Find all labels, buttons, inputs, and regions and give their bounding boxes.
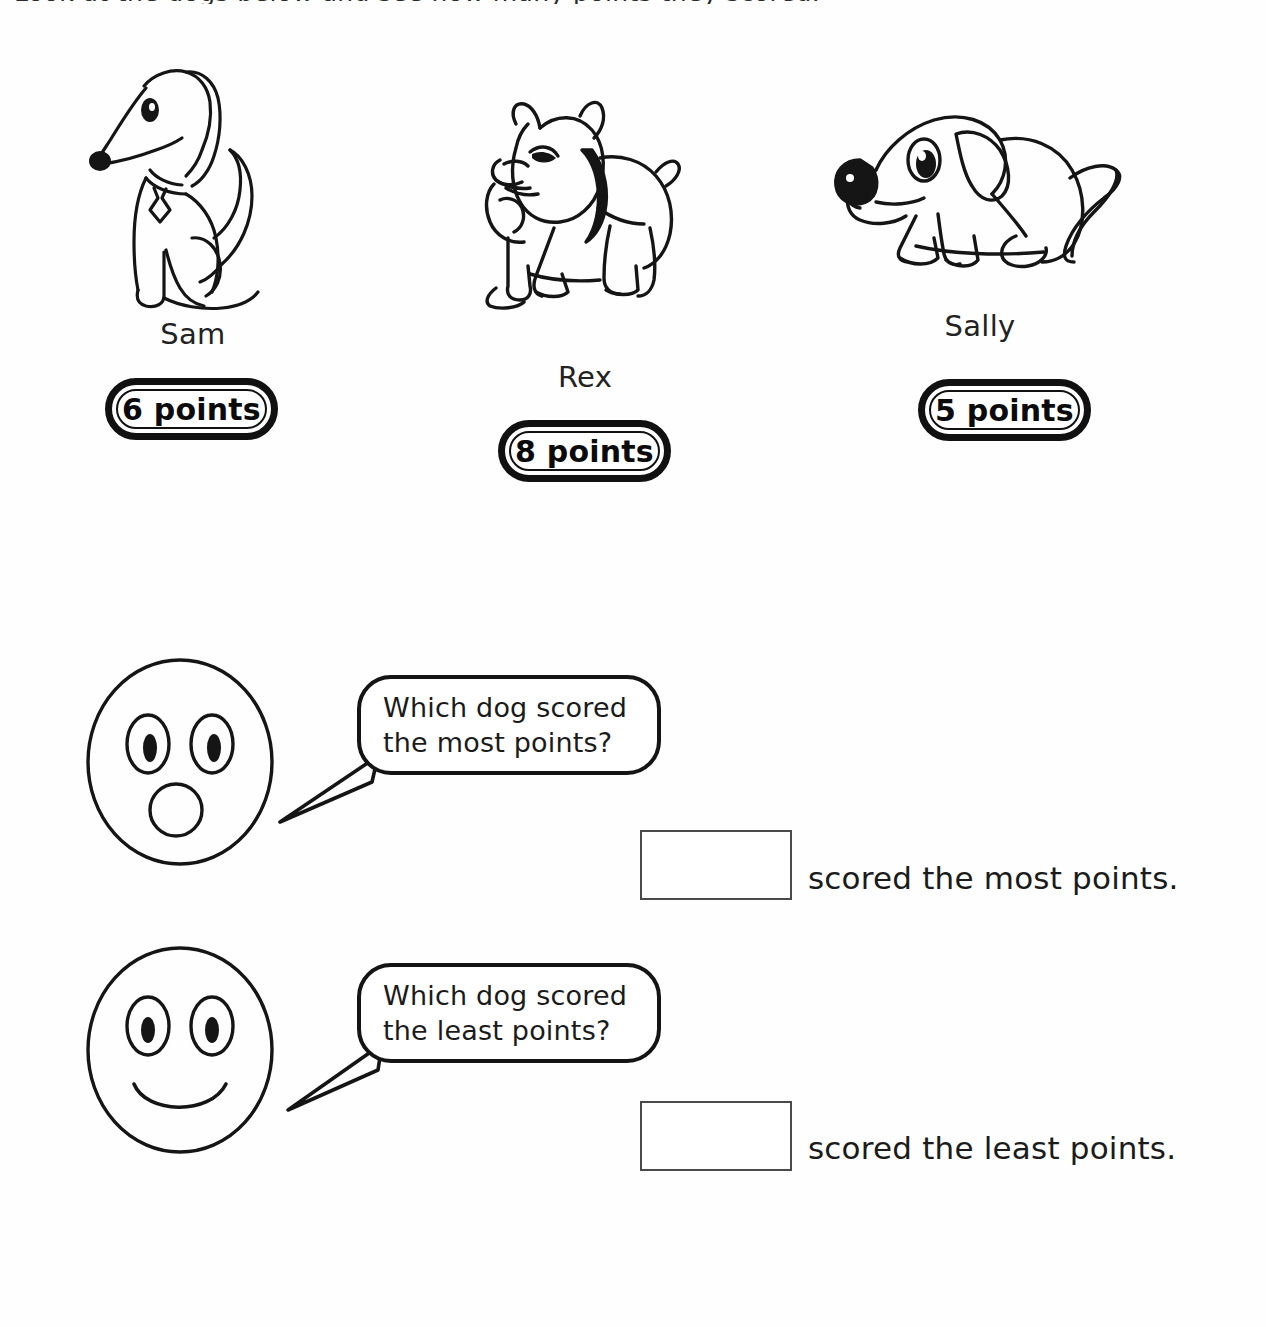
dog-illustration-sally <box>820 96 1140 296</box>
dog-name-sally: Sally <box>820 309 1140 343</box>
speech-bubble-least: Which dog scored the least points? <box>357 963 661 1063</box>
dog-panel-sam: Sam 6 points <box>88 52 298 452</box>
surprised-face-icon <box>84 656 284 868</box>
cut-off-header-label: Look at the dogs below and see how many … <box>0 0 1266 4</box>
dog-illustration-rex <box>470 88 700 328</box>
dog-name-rex: Rex <box>470 360 700 394</box>
dog-name-sam: Sam <box>88 317 298 351</box>
points-badge-rex: 8 points <box>498 420 671 482</box>
speech-bubble-most: Which dog scored the most points? <box>357 675 661 775</box>
points-badge-label-sally: 5 points <box>935 393 1074 428</box>
cut-off-header-text: Look at the dogs below and see how many … <box>0 0 1266 4</box>
speech-bubble-least-text: Which dog scored the least points? <box>361 978 641 1048</box>
points-badge-label-rex: 8 points <box>515 434 654 469</box>
answer-input-most[interactable] <box>640 830 792 900</box>
smiling-face-icon <box>84 944 284 1156</box>
dog-illustration-sam <box>88 52 298 314</box>
dog-panel-sally: Sally 5 points <box>820 96 1140 496</box>
points-badge-label-sam: 6 points <box>122 392 261 427</box>
dog-panel-rex: Rex 8 points <box>470 88 700 488</box>
answer-input-least[interactable] <box>640 1101 792 1171</box>
answer-suffix-least: scored the least points. <box>808 1130 1176 1166</box>
points-badge-sally: 5 points <box>918 379 1091 441</box>
worksheet-page: Look at the dogs below and see how many … <box>0 0 1266 1327</box>
points-badge-sam: 6 points <box>105 378 278 440</box>
answer-suffix-most: scored the most points. <box>808 860 1179 896</box>
speech-bubble-most-text: Which dog scored the most points? <box>361 690 641 760</box>
